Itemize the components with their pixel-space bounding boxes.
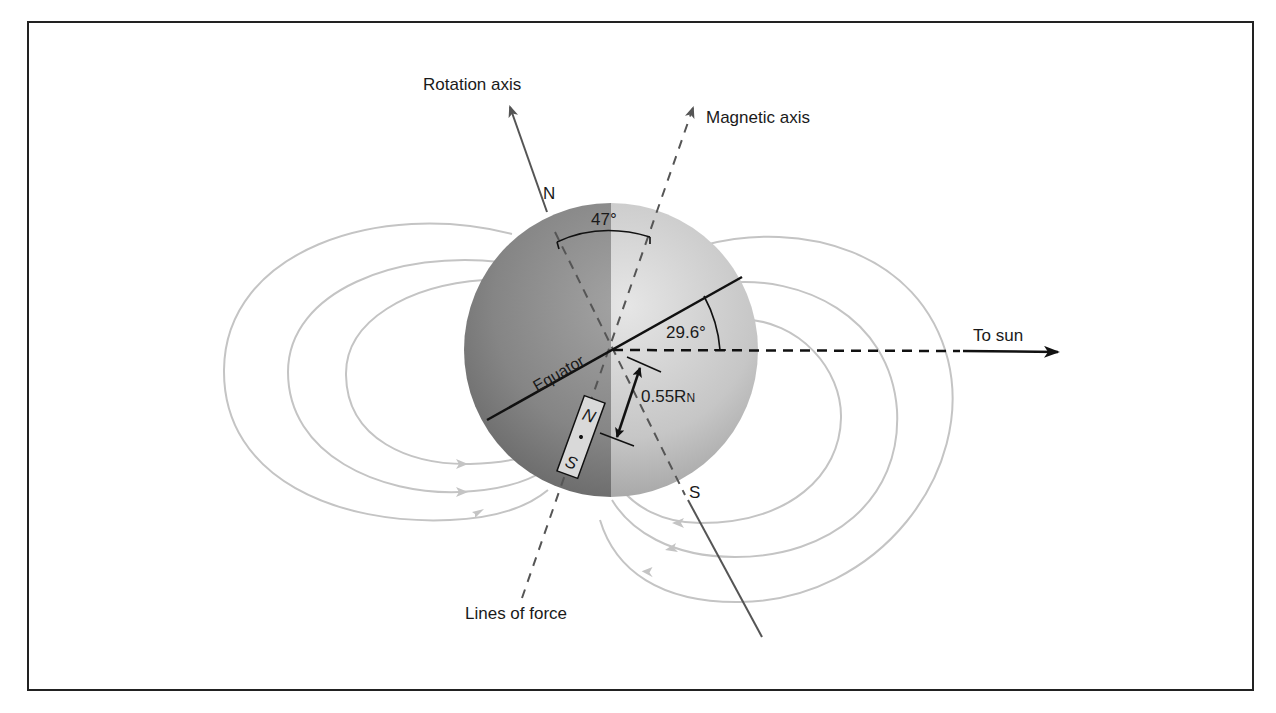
equator-sun-angle-label: 29.6° — [666, 323, 706, 342]
field-arrows-left — [456, 459, 484, 518]
north-pole-label: N — [543, 184, 555, 203]
south-pole-label: S — [689, 483, 700, 502]
rotation-axis-label: Rotation axis — [423, 75, 521, 94]
offset-value: 0.55R — [641, 387, 686, 406]
field-arrows-right — [641, 518, 684, 577]
magnetic-axis-label: Magnetic axis — [706, 108, 810, 127]
to-sun-label: To sun — [973, 326, 1023, 345]
to-sun-line — [613, 350, 960, 351]
tilt-angle-label: 47° — [591, 210, 617, 229]
offset-subscript: N — [686, 391, 695, 405]
diagram-figure: 47° Equator To sun 29.6° 0.55RN N S N S … — [0, 0, 1276, 713]
lines-of-force-label: Lines of force — [465, 604, 567, 623]
to-sun-arrow — [963, 351, 1058, 352]
